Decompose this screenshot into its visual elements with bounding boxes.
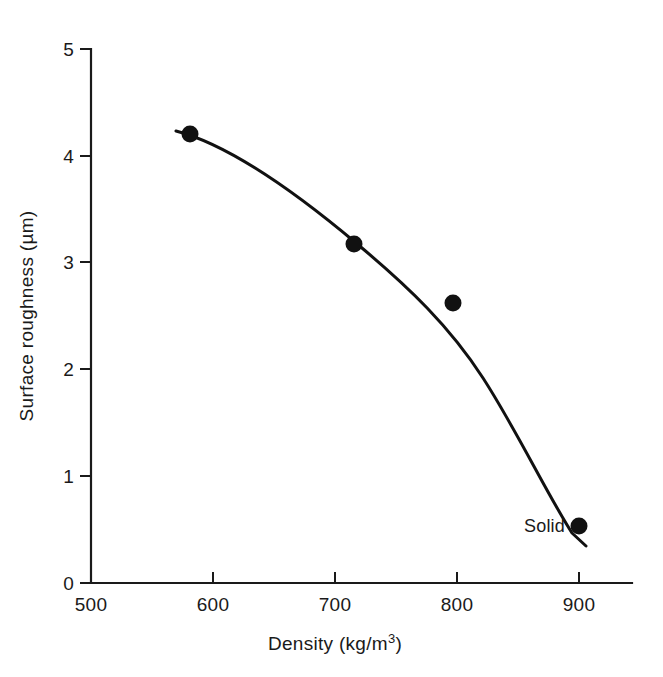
x-axis-title-exponent: 3 <box>388 631 396 646</box>
surface-roughness-curve <box>176 131 586 546</box>
x-tick-label-500: 500 <box>75 594 107 615</box>
x-axis-title-unit-denominator: /m <box>366 633 388 654</box>
y-tick-label-1: 1 <box>63 466 74 487</box>
y-tick-label-4: 4 <box>63 146 74 167</box>
y-tick-label-5: 5 <box>63 39 74 60</box>
data-series-group <box>176 126 588 547</box>
figure-panel: 0 1 2 3 4 5 500 600 700 800 900 <box>0 0 663 677</box>
y-tick-label-0: 0 <box>63 573 74 594</box>
data-point-marker <box>182 126 199 143</box>
y-tick-label-2: 2 <box>63 359 74 380</box>
data-point-marker <box>445 295 462 312</box>
x-axis-title: Density (kg/m3) <box>268 631 402 654</box>
y-tick-label-3: 3 <box>63 252 74 273</box>
x-tick-label-700: 700 <box>319 594 351 615</box>
axes-group <box>91 49 632 583</box>
x-axis-tick-labels: 500 600 700 800 900 <box>75 594 595 615</box>
x-axis-ticks <box>91 572 579 583</box>
y-axis-tick-labels: 0 1 2 3 4 5 <box>63 39 74 594</box>
data-point-marker <box>571 518 588 535</box>
x-tick-label-800: 800 <box>441 594 473 615</box>
x-axis-title-close-paren: ) <box>395 633 402 654</box>
solid-point-annotation: Solid <box>524 516 565 536</box>
y-axis-title: Surface roughness (µm) <box>16 211 37 422</box>
surface-roughness-density-chart: 0 1 2 3 4 5 500 600 700 800 900 <box>0 0 663 677</box>
x-axis-title-main: Density (kg <box>268 633 366 654</box>
x-tick-label-600: 600 <box>197 594 229 615</box>
x-tick-label-900: 900 <box>563 594 595 615</box>
data-point-marker <box>346 236 363 253</box>
y-axis-ticks <box>80 49 91 583</box>
